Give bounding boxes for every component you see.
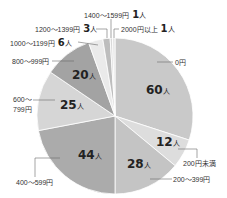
label-400-599yen: 400〜599円	[16, 179, 53, 187]
label-200-399yen: 200〜399円	[173, 176, 210, 184]
label-800-999yen: 800〜999円	[12, 58, 49, 66]
label-0yen: 0円	[175, 59, 186, 67]
label-600-799yen-line2: 799円	[13, 106, 32, 114]
label-1400-1599yen: 1400〜1599円1人	[84, 9, 146, 20]
pie-chart: 60人 12人 28人 44人 25人 20人 0円 200円未満 200〜39…	[0, 0, 227, 198]
label-under-200yen: 200円未満	[183, 159, 216, 168]
label-2000yen-plus: 2000円以上1人	[121, 23, 175, 34]
label-1000-1199yen: 1000〜1199円6人	[10, 37, 72, 48]
leader-1200-1399yen	[96, 29, 107, 38]
leader-2000yen-plus	[114, 29, 119, 38]
pie-slices	[37, 38, 193, 194]
label-600-799yen-line1: 600〜	[13, 96, 32, 103]
label-1200-1399yen: 1200〜1399円3人	[35, 23, 97, 34]
